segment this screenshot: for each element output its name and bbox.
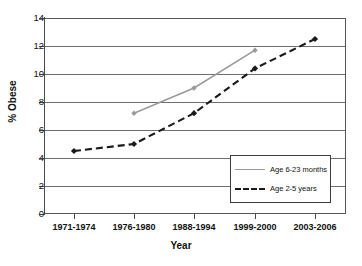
x-tick-2 bbox=[194, 214, 195, 219]
y-tick-label-6: 6 bbox=[16, 125, 44, 135]
y-tick-label-12: 12 bbox=[16, 41, 44, 51]
x-tick-4 bbox=[315, 214, 316, 219]
x-tick-label-4: 2003-2006 bbox=[275, 222, 355, 233]
gridline-6 bbox=[45, 130, 345, 131]
legend-entry-0: Age 6-23 months bbox=[235, 163, 329, 177]
y-axis-title: % Obese bbox=[7, 52, 18, 152]
legend-label-0: Age 6-23 months bbox=[270, 163, 327, 177]
legend-line-dashed-icon bbox=[235, 188, 265, 192]
gridline-10 bbox=[45, 74, 345, 75]
gridline-8 bbox=[45, 102, 345, 103]
legend-label-1: Age 2-5 years bbox=[270, 182, 317, 196]
x-axis-title: Year bbox=[0, 240, 362, 251]
legend: Age 6-23 months Age 2-5 years bbox=[230, 155, 331, 203]
gridline-12 bbox=[45, 46, 345, 47]
x-tick-0 bbox=[74, 214, 75, 219]
y-tick-label-14: 14 bbox=[16, 13, 44, 23]
legend-line-solid-icon bbox=[235, 169, 265, 172]
y-tick-label-0: 0 bbox=[16, 209, 44, 219]
y-tick-label-10: 10 bbox=[16, 69, 44, 79]
y-tick-label-2: 2 bbox=[16, 181, 44, 191]
obesity-trend-chart: 14 12 10 8 6 4 2 0 1971-1974 1976-1980 1… bbox=[0, 0, 362, 266]
y-tick-label-4: 4 bbox=[16, 153, 44, 163]
y-axis-line bbox=[44, 17, 45, 215]
legend-entry-1: Age 2-5 years bbox=[235, 182, 329, 196]
x-tick-3 bbox=[255, 214, 256, 219]
x-tick-1 bbox=[134, 214, 135, 219]
y-tick-label-8: 8 bbox=[16, 97, 44, 107]
